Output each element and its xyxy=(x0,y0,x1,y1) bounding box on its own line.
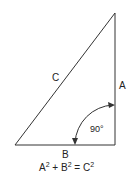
eq-equals: = xyxy=(74,162,80,173)
triangle-diagram xyxy=(0,0,140,187)
eq-c-exp: 2 xyxy=(90,161,94,168)
eq-plus: + xyxy=(52,162,58,173)
label-b: B xyxy=(62,150,69,160)
eq-b: B xyxy=(61,162,68,173)
eq-a-exp: 2 xyxy=(46,161,50,168)
eq-a: A xyxy=(39,162,46,173)
arc-arrowhead-top xyxy=(108,102,115,108)
label-a: A xyxy=(119,81,126,91)
pythagorean-equation: A2 + B2 = C2 xyxy=(39,162,94,174)
label-c: C xyxy=(52,73,59,83)
arc-arrowhead-bottom xyxy=(72,138,78,145)
label-angle: 90° xyxy=(90,124,104,134)
eq-b-exp: 2 xyxy=(68,161,72,168)
